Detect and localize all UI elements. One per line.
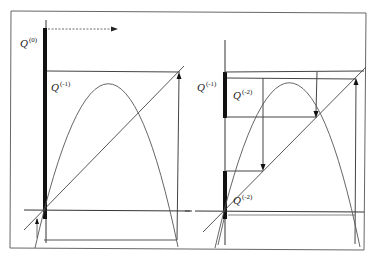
label-q0: Q(0) (20, 37, 37, 49)
left-qm1-bar (43, 71, 47, 219)
label-left-qm1-base: Q (51, 81, 59, 93)
left-right-vertical (177, 76, 179, 240)
right-panel (185, 40, 366, 248)
label-q0-base: Q (20, 37, 28, 49)
label-left-qm1: Q(-1) (51, 81, 70, 93)
outer-frame-border (10, 11, 366, 250)
left-top-horizontal (47, 71, 180, 72)
label-q0-sup: (0) (29, 36, 37, 44)
right-qm1-bar (223, 72, 227, 118)
label-right-qm1-sup: (-1) (206, 80, 217, 88)
outer-frame (11, 11, 366, 123)
right-top-horizontal-2 (227, 78, 356, 79)
right-parabola-curve (215, 83, 360, 248)
right-right-vertical (355, 82, 356, 244)
label-right-qm2-top: Q(-2) (233, 89, 252, 101)
left-diagonal-line (24, 66, 184, 230)
label-right-qm2-top-base: Q (233, 89, 241, 101)
left-parabola-curve (35, 84, 178, 248)
right-diagonal-line (203, 67, 366, 232)
label-right-qm1-base: Q (197, 81, 205, 93)
cobweb-diagram-figure: Q(0) Q(-1) Q(-1) Q(-2) Q(-2) (0, 0, 375, 263)
left-panel (24, 20, 190, 248)
label-right-qm2-bottom: Q(-2) (233, 194, 252, 206)
small-up-arrow-icon (35, 218, 39, 224)
label-right-qm2-bottom-sup: (-2) (242, 193, 253, 201)
dotted-right-arrow-icon (111, 27, 118, 32)
label-right-qm2-bottom-base: Q (233, 194, 241, 206)
right-top-horizontal-1 (225, 71, 364, 72)
label-right-qm2-top-sup: (-2) (242, 88, 253, 96)
label-left-qm1-sup: (-1) (60, 80, 71, 88)
left-horizontal-axis (24, 210, 190, 211)
right-horizontal-axis (195, 211, 364, 212)
label-right-qm1: Q(-1) (197, 81, 216, 93)
